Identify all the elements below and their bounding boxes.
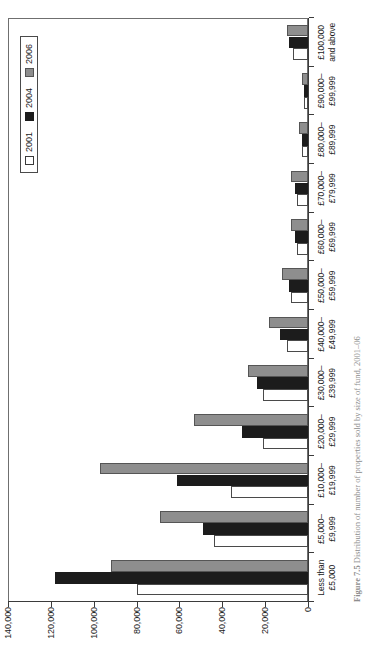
bar-2004-1 [203,523,308,535]
legend-item-2006: 2006 [24,44,34,77]
category-axis-label-line: £80,000– [316,115,327,164]
category-axis-label: £30,000–£39,999 [316,359,337,408]
bar-2001-3 [263,438,308,450]
category-axis-label-line: £29,999 [327,407,338,456]
bar-2004-9 [302,134,308,146]
category-axis-label-line: £70,000– [316,164,327,213]
legend-swatch-2006 [25,68,34,77]
bar-2001-7 [297,243,308,255]
caption-number: Figure 7.5 [352,565,362,602]
category-axis-label-line: £79,999 [327,164,338,213]
bar-2006-2 [100,463,308,475]
category-axis-label-line: £69,999 [327,213,338,262]
category-axis-label: £80,000–£89,999 [316,115,337,164]
bar-2004-0 [55,572,308,584]
legend-label: 2001 [24,132,34,152]
rotated-page-canvas: 020,00040,00060,00080,000100,000120,0001… [0,0,376,660]
category-axis-label: £40,000–£49,999 [316,310,337,359]
bar-2004-3 [242,426,308,438]
category-axis-label: £70,000–£79,999 [316,164,337,213]
chart-legend: 200120042006 [20,36,38,173]
category-axis-tick [309,601,314,602]
bar-2006-3 [194,414,308,426]
category-axis-label-line: £9,999 [327,505,338,554]
category-axis-tick [309,260,314,261]
category-axis-label-line: £30,000– [316,359,327,408]
category-axis-label-line: £39,999 [327,359,338,408]
value-axis-tick-label: 20,000 [260,607,270,634]
bar-2006-9 [299,122,308,134]
bar-2004-4 [257,377,308,389]
category-axis-label: £10,000–£19,999 [316,456,337,505]
bar-2004-10 [304,85,308,97]
value-axis-tick-label: 80,000 [132,607,142,634]
legend-swatch-2001 [25,156,34,165]
category-axis-line [308,18,309,602]
category-axis-label-line: £50,000– [316,261,327,310]
category-axis-label: £60,000–£69,999 [316,213,337,262]
bar-2001-8 [297,194,308,206]
bar-2004-8 [295,183,308,195]
bar-2006-10 [302,74,308,86]
category-axis-tick [309,455,314,456]
bar-2001-4 [263,389,308,401]
bar-2001-2 [231,486,308,498]
category-axis-tick [309,406,314,407]
value-axis-tick-label: 100,000 [89,607,99,639]
category-axis-tick [309,358,314,359]
bar-2001-6 [291,292,308,304]
category-axis-tick [309,17,314,18]
category-axis-tick [309,552,314,553]
bar-2001-0 [137,584,308,596]
category-axis-label-line: £59,999 [327,261,338,310]
caption-text: Distribution of number of properties sol… [352,336,362,563]
category-axis-label-line: £5,000– [316,505,327,554]
value-axis-line [8,601,309,602]
category-axis-label-line: and above [327,18,338,67]
category-axis-label-line: £10,000– [316,456,327,505]
category-axis-label-line: £99,999 [327,67,338,116]
legend-item-2001: 2001 [24,132,34,165]
bar-2006-7 [291,220,308,232]
bar-2001-10 [304,97,308,109]
category-axis-label-line: £20,000– [316,407,327,456]
bar-2004-5 [280,329,308,341]
category-axis-label-line: £100,000 [316,18,327,67]
legend-item-2004: 2004 [24,88,34,121]
category-axis-label-line: £5,000 [327,553,338,602]
bar-2001-5 [287,340,308,352]
bar-2006-1 [160,512,308,524]
bar-chart-figure: 020,00040,00060,00080,000100,000120,0001… [0,0,376,660]
category-axis-tick [309,66,314,67]
bar-2006-4 [248,366,308,378]
bar-2006-6 [282,268,308,280]
category-axis-label: £50,000–£59,999 [316,261,337,310]
bar-2004-11 [289,37,308,49]
bar-2006-8 [291,171,308,183]
category-axis-label: £20,000–£29,999 [316,407,337,456]
figure-caption: Figure 7.5 Distribution of number of pro… [352,336,362,602]
bar-2001-11 [293,48,308,60]
category-axis-label-line: £89,999 [327,115,338,164]
category-axis-tick [309,163,314,164]
category-axis-label-line: £49,999 [327,310,338,359]
value-axis-tick-label: 40,000 [217,607,227,634]
bar-2006-0 [111,560,308,572]
bar-2004-6 [289,280,308,292]
bar-2006-11 [287,25,308,37]
category-axis-label: £100,000and above [316,18,337,67]
legend-label: 2006 [24,44,34,64]
category-axis-label-line: £19,999 [327,456,338,505]
category-axis-tick [309,212,314,213]
bar-2001-1 [214,535,308,547]
category-axis-label-line: £90,000– [316,67,327,116]
bar-2006-5 [269,317,308,329]
category-axis-label: £90,000–£99,999 [316,67,337,116]
category-axis-tick [309,309,314,310]
category-axis-label: Less than£5,000 [316,553,337,602]
legend-label: 2004 [24,88,34,108]
value-axis-tick-label: 120,000 [46,607,56,639]
category-axis-label-line: Less than [316,553,327,602]
category-axis-label-line: £40,000– [316,310,327,359]
legend-swatch-2004 [25,112,34,121]
